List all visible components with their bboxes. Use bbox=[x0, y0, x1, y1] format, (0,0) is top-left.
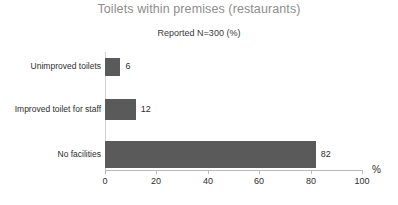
x-tick-label: 40 bbox=[203, 176, 213, 186]
x-axis-title: % bbox=[372, 164, 381, 175]
x-tick-mark bbox=[208, 170, 209, 174]
x-tick-label: 100 bbox=[354, 176, 369, 186]
x-tick-mark bbox=[311, 170, 312, 174]
bar bbox=[105, 99, 136, 120]
x-axis-line bbox=[105, 170, 363, 171]
chart-subtitle: Reported N=300 (%) bbox=[0, 28, 398, 38]
x-tick-mark bbox=[105, 170, 106, 174]
category-label: No facilities bbox=[0, 149, 101, 159]
x-tick-mark bbox=[259, 170, 260, 174]
x-tick-mark bbox=[362, 170, 363, 174]
bar bbox=[105, 58, 120, 76]
x-tick-label: 0 bbox=[102, 176, 107, 186]
category-label: Improved toilet for staff bbox=[0, 104, 101, 114]
x-tick-label: 20 bbox=[151, 176, 161, 186]
x-tick-label: 80 bbox=[306, 176, 316, 186]
bar bbox=[105, 141, 316, 168]
category-label: Unimproved toilets bbox=[0, 61, 101, 71]
chart-title: Toilets within premises (restaurants) bbox=[0, 2, 398, 16]
bar-value-label: 6 bbox=[125, 61, 130, 71]
bottom-cutoff-text bbox=[6, 198, 28, 205]
x-tick-label: 60 bbox=[254, 176, 264, 186]
bar-value-label: 82 bbox=[321, 149, 331, 159]
x-tick-mark bbox=[156, 170, 157, 174]
bar-value-label: 12 bbox=[141, 104, 151, 114]
chart-container: Toilets within premises (restaurants) Re… bbox=[0, 0, 398, 205]
